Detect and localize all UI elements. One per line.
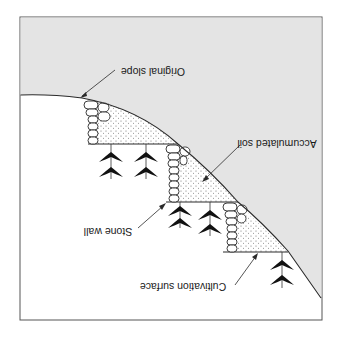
label-accumulated-soil: Accumulated soil: [237, 138, 316, 150]
label-stone-wall: Stone wall: [84, 226, 132, 238]
terrace-diagram: Original slope Accumulated soil Stone wa…: [0, 0, 340, 342]
label-original-slope: Original slope: [121, 66, 185, 78]
label-cultivation-surface: Cultivation surface: [140, 281, 227, 293]
